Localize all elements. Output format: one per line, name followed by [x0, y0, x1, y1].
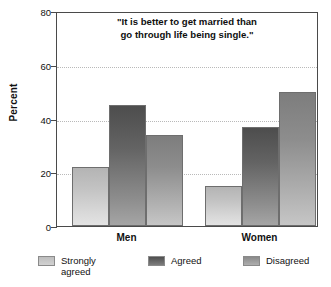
bar-women-strongly-agreed — [205, 186, 242, 226]
legend-swatch-strongly-agreed-icon — [38, 256, 55, 266]
y-tick-label-80: 80 — [27, 7, 51, 18]
gridline-40 — [57, 121, 317, 122]
legend-swatch-agreed-icon — [148, 256, 165, 266]
y-tick-label-40: 40 — [27, 114, 51, 125]
y-tick-label-20: 20 — [27, 168, 51, 179]
legend-label-strongly-agreed: Strongly agreed — [61, 255, 96, 277]
plot-area — [56, 12, 318, 227]
legend-item-strongly-agreed[interactable]: Strongly agreed — [38, 255, 96, 277]
bar-men-strongly-agreed — [72, 167, 109, 226]
legend-item-disagreed[interactable]: Disagreed — [243, 255, 309, 266]
chart-figure: Percent 020406080 "It is better to get m… — [0, 0, 331, 287]
gridline-60 — [57, 67, 317, 68]
x-category-label-women: Women — [242, 232, 278, 243]
y-tick-label-60: 60 — [27, 60, 51, 71]
legend-swatch-disagreed-icon — [243, 256, 260, 266]
chart-title-line-1: "It is better to get married than — [56, 16, 318, 29]
legend-label-agreed: Agreed — [171, 255, 202, 266]
plot-inner — [57, 13, 317, 226]
bar-women-agreed — [242, 127, 279, 226]
x-category-label-men: Men — [117, 232, 137, 243]
chart-title-line-2: go through life being single." — [56, 29, 318, 42]
legend-item-agreed[interactable]: Agreed — [148, 255, 202, 266]
legend-label-disagreed: Disagreed — [266, 255, 309, 266]
chart-title: "It is better to get married than go thr… — [56, 16, 318, 41]
bar-women-disagreed — [279, 92, 316, 226]
y-tick-label-0: 0 — [27, 222, 51, 233]
chart-legend: Strongly agreedAgreedDisagreed — [0, 255, 331, 287]
y-tick-mark-0 — [51, 227, 57, 228]
bar-men-disagreed — [146, 135, 183, 226]
bar-men-agreed — [109, 105, 146, 226]
